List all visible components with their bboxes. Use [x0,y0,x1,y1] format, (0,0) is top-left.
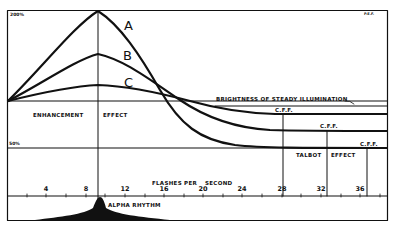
curve-label-b: B [123,49,132,62]
effect-label-2: EFFECT [331,153,356,159]
cff-label-c: C.F.F. [275,108,293,114]
enhancement-label: ENHANCEMENT [33,113,84,119]
x-tick-28: 28 [277,186,286,193]
curve-label-a: A [124,19,133,32]
x-tick-24: 24 [237,186,246,193]
y-label-200: 200% [10,13,24,18]
talbot-label: TALBOT [296,153,322,159]
x-tick-8: 8 [84,186,89,193]
alpha-rhythm-label: ALPHA RHYTHM [108,203,161,209]
x-tick-36: 36 [355,186,364,193]
cff-label-a: C.F.F. [360,142,378,148]
y-label-50: 50% [9,142,20,147]
x-tick-12: 12 [120,186,129,193]
x-tick-16: 16 [159,186,168,193]
brightness-label: BRIGHTNESS OF STEADY ILLUMINATION [216,97,348,103]
effect-label-1: EFFECT [103,113,128,119]
cff-label-b: C.F.F. [320,124,338,130]
curve-b [8,54,387,131]
x-tick-4: 4 [44,186,49,193]
x-tick-20: 20 [198,186,207,193]
corner-mark: P.E.F. [364,13,374,17]
x-tick-32: 32 [316,186,325,193]
alpha-rhythm-area [35,197,170,220]
x-axis-title-2: SECOND [205,181,232,187]
curve-label-c: C [124,76,133,89]
